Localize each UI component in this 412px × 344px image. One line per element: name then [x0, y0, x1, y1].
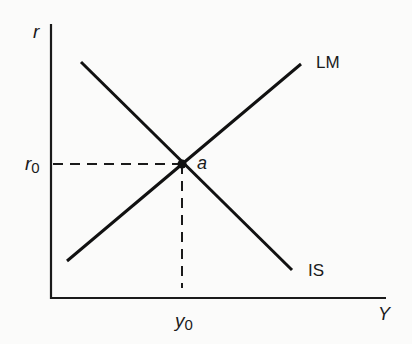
is-lm-chart: r Y r0 y0 a LM IS — [0, 0, 412, 344]
y0-subscript: 0 — [185, 316, 193, 333]
equilibrium-point — [178, 160, 187, 169]
lm-label: LM — [316, 53, 340, 72]
is-label: IS — [308, 261, 324, 280]
is-curve — [81, 62, 292, 270]
x-axis-label: Y — [378, 304, 392, 324]
r0-label: r0 — [25, 153, 40, 176]
equilibrium-label: a — [197, 153, 207, 173]
chart-canvas: r Y r0 y0 a LM IS — [0, 0, 412, 344]
y-axis-label: r — [33, 21, 40, 42]
y0-label: y0 — [173, 310, 193, 333]
r0-subscript: 0 — [31, 159, 39, 176]
